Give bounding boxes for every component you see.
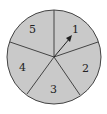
- section-label-4: 4: [19, 61, 26, 74]
- spinner-diagram: 1 2 3 4 5: [0, 0, 107, 114]
- section-label-5: 5: [29, 23, 36, 36]
- section-label-1: 1: [72, 23, 79, 36]
- section-label-2: 2: [82, 62, 89, 75]
- section-label-3: 3: [50, 83, 57, 96]
